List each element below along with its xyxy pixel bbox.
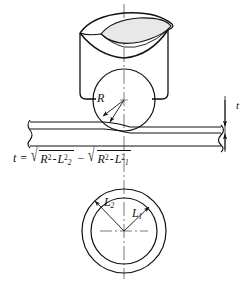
label-thickness-t: t bbox=[236, 100, 239, 111]
formula-minus-operator: − bbox=[78, 151, 85, 166]
label-radius-R: R bbox=[97, 92, 104, 104]
term1-variable-subscript: 2 bbox=[68, 158, 72, 167]
radical-sign-icon-2: √ bbox=[88, 146, 95, 167]
punch-cylinder bbox=[80, 13, 173, 99]
label-chord-L2: L2 bbox=[104, 196, 114, 210]
term2-base: R bbox=[98, 152, 105, 166]
label-L1-base: L bbox=[132, 206, 139, 220]
formula-radical-term-1: √ R2-L22 bbox=[31, 150, 73, 167]
radius-R-leader-arrows bbox=[103, 100, 124, 122]
label-chord-L1: L1 bbox=[132, 207, 142, 221]
label-L2-base: L bbox=[104, 195, 111, 209]
term2-variable-subscript: 1 bbox=[125, 158, 129, 167]
formula-equals: = bbox=[20, 151, 27, 166]
label-L2-subscript: 2 bbox=[111, 201, 115, 210]
formula-term-1-body: R2-L22 bbox=[39, 150, 73, 167]
thickness-formula: t = √ R2-L22 − √ R2-L21 bbox=[13, 150, 131, 167]
label-L1-subscript: 1 bbox=[139, 212, 143, 221]
sheet-strip bbox=[28, 120, 224, 152]
term1-operator: - bbox=[52, 152, 56, 166]
formula-radical-term-2: √ R2-L21 bbox=[88, 150, 130, 167]
formula-lhs: t bbox=[13, 151, 16, 166]
term1-exponent: 2 bbox=[48, 153, 52, 162]
term1-base: R bbox=[40, 152, 47, 166]
formula-term-2-body: R2-L21 bbox=[97, 150, 131, 167]
term2-exponent: 2 bbox=[105, 153, 109, 162]
radical-sign-icon: √ bbox=[31, 146, 38, 167]
term2-operator: - bbox=[110, 152, 114, 166]
figure-drawing-canvas bbox=[0, 0, 249, 283]
technical-figure: R t L2 L1 t = √ R2-L22 − √ R2-L21 bbox=[0, 0, 249, 283]
